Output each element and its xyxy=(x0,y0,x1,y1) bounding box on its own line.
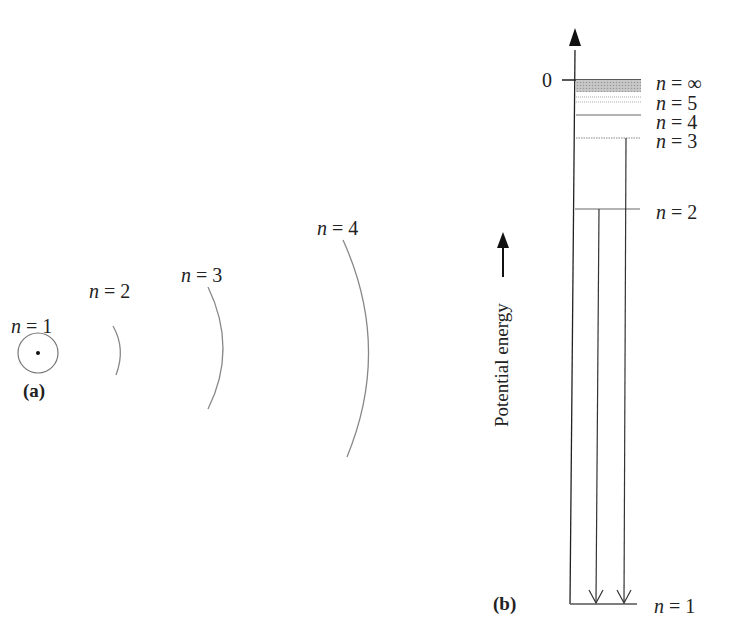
panel-a-label: (a) xyxy=(23,381,45,400)
nucleus-dot xyxy=(36,351,40,355)
potential-energy-axis-label: Potential energy xyxy=(492,303,511,427)
potential-energy-arrowhead xyxy=(497,232,509,248)
panel-b-label: (b) xyxy=(493,594,516,613)
level-label-n3: n = 3 xyxy=(656,131,697,151)
orbit-arc-n3 xyxy=(208,287,223,409)
level-label-n4: n = 4 xyxy=(656,112,697,132)
orbit-arc-n2 xyxy=(113,326,120,375)
orbit-label-n3: n = 3 xyxy=(181,265,222,285)
diagram-canvas xyxy=(0,0,739,624)
level-label-n2: n = 2 xyxy=(656,202,697,222)
level-label-n1: n = 1 xyxy=(654,596,695,616)
energy-axis xyxy=(570,50,575,604)
level-label-ninf: n = ∞ xyxy=(656,73,702,93)
continuum-shading xyxy=(576,80,641,92)
axis-arrowhead xyxy=(569,28,581,46)
orbit-label-n2: n = 2 xyxy=(89,281,130,301)
transition-n3-to-n1 xyxy=(624,138,626,603)
transition-n2-to-n1 xyxy=(596,209,599,603)
bohr-model-figure: n = 1 n = 2 n = 3 n = 4 (a) 0 n = ∞ n = … xyxy=(0,0,739,624)
orbit-arc-n4 xyxy=(343,240,369,457)
orbit-label-n1: n = 1 xyxy=(11,316,52,336)
orbit-label-n4: n = 4 xyxy=(317,218,358,238)
panel-b-energy-diagram xyxy=(497,28,641,604)
level-label-n5: n = 5 xyxy=(656,93,697,113)
zero-energy-label: 0 xyxy=(542,70,552,90)
